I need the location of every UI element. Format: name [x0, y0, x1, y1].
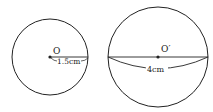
right-center-dot: [156, 55, 159, 58]
left-radius-brace-right: [81, 58, 88, 61]
left-center-label: O: [53, 46, 60, 56]
left-radius-label: 1.5cm: [57, 57, 80, 66]
right-center-label: O′: [161, 44, 170, 54]
diagram-canvas: O 1.5cm O′ 4cm: [0, 0, 213, 112]
left-sphere: O 1.5cm: [12, 19, 88, 95]
right-diameter-label: 4cm: [147, 65, 165, 74]
right-sphere: O′ 4cm: [108, 7, 208, 107]
